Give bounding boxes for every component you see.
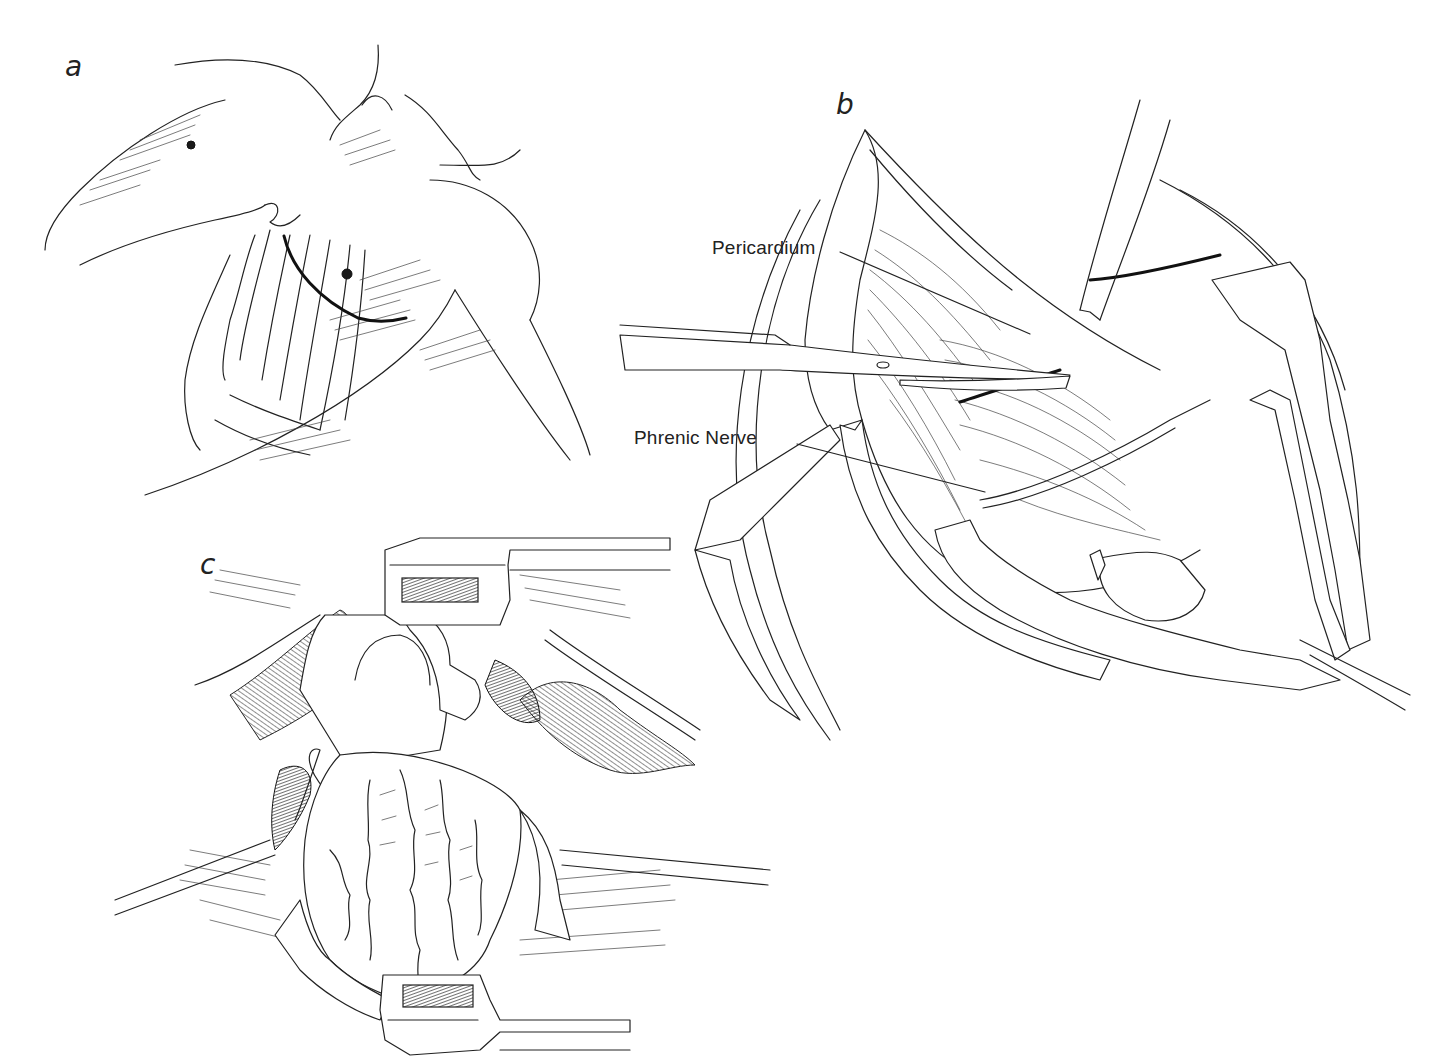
heart-exposure-illustration [100,520,800,1062]
chest-illustration [0,0,620,520]
panel-a: a [0,0,620,520]
panel-c: c [100,520,800,1062]
